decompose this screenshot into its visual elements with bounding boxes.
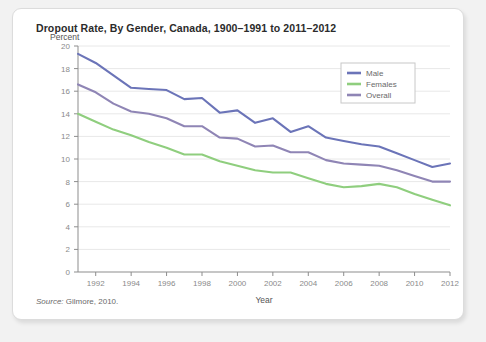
figure-card: Dropout Rate, By Gender, Canada, 1900–19… [12,8,464,320]
x-axis-title: Year [255,295,272,305]
y-tick-label: 6 [66,200,71,209]
x-tick-label: 1992 [87,279,105,288]
x-tick-label: 2010 [406,279,424,288]
x-tick-label: 1996 [158,279,176,288]
legend-label-females: Females [366,80,397,89]
source-label: Source: [36,297,64,306]
x-tick-label: 2006 [335,279,353,288]
legend-label-male: Male [366,69,384,78]
x-tick-label: 2000 [229,279,247,288]
legend-label-overall: Overall [366,91,392,100]
line-chart: 0246810121416182019921994199619982000200… [13,9,465,321]
y-tick-label: 16 [61,87,70,96]
x-tick-label: 1998 [193,279,211,288]
x-tick-label: 2002 [264,279,282,288]
y-tick-label: 4 [66,223,71,232]
y-tick-label: 10 [61,155,70,164]
source-citation: Gilmore, 2010. [64,297,119,306]
x-tick-label: 2004 [299,279,317,288]
x-tick-label: 2012 [441,279,459,288]
y-tick-label: 20 [61,42,70,51]
series-line-females [78,114,450,206]
source-note: Source: Gilmore, 2010. [36,297,118,306]
x-tick-label: 1994 [122,279,140,288]
x-tick-label: 2008 [370,279,388,288]
y-tick-label: 2 [66,245,71,254]
y-tick-label: 18 [61,65,70,74]
y-tick-label: 8 [66,178,71,187]
y-axis-title: Percent [50,32,80,42]
y-tick-label: 14 [61,110,70,119]
y-tick-label: 12 [61,132,70,141]
y-tick-label: 0 [66,268,71,277]
